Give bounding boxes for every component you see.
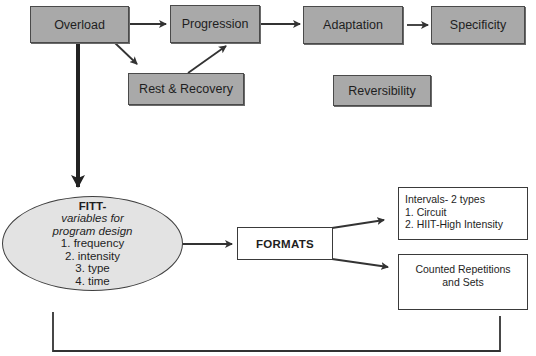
arrow-rest-progression xyxy=(188,46,226,73)
overload-label: Overload xyxy=(54,18,105,32)
reversibility-box: Reversibility xyxy=(333,75,431,106)
counted-line-2: and Sets xyxy=(399,276,527,289)
fitt-ellipse: FITT- variables for program design 1. fr… xyxy=(2,196,183,291)
adaptation-box: Adaptation xyxy=(303,6,403,44)
specificity-label: Specificity xyxy=(450,18,506,32)
fitt-subtitle-1: variables for xyxy=(61,212,124,225)
intervals-title: Intervals- 2 types xyxy=(405,193,527,206)
progression-label: Progression xyxy=(182,17,249,31)
fitt-subtitle-2: program design xyxy=(53,225,133,238)
arrow-overload-rest xyxy=(115,43,137,64)
counted-repetitions-box: Counted Repetitions and Sets xyxy=(398,254,528,310)
adaptation-label: Adaptation xyxy=(323,18,383,32)
fitt-item-time: 4. time xyxy=(75,275,110,288)
overload-box: Overload xyxy=(30,6,129,43)
intervals-item-circuit: 1. Circuit xyxy=(405,206,527,219)
fitt-item-intensity: 2. intensity xyxy=(65,250,120,263)
fitt-item-frequency: 1. frequency xyxy=(61,237,124,250)
specificity-box: Specificity xyxy=(431,6,525,44)
formats-label: FORMATS xyxy=(256,238,314,250)
fitt-item-type: 3. type xyxy=(75,262,110,275)
rest-recovery-label: Rest & Recovery xyxy=(139,82,233,96)
formats-box: FORMATS xyxy=(237,227,333,260)
rest-recovery-box: Rest & Recovery xyxy=(128,73,244,105)
progression-box: Progression xyxy=(170,5,260,43)
arrow-formats-intervals xyxy=(332,220,384,228)
fitt-title: FITT- xyxy=(79,200,106,213)
bottom-bracket xyxy=(53,312,500,351)
intervals-box: Intervals- 2 types 1. Circuit 2. HIIT-Hi… xyxy=(398,187,528,240)
arrow-formats-counted xyxy=(332,259,388,267)
counted-line-1: Counted Repetitions xyxy=(399,263,527,276)
reversibility-label: Reversibility xyxy=(348,84,415,98)
intervals-item-hiit: 2. HIIT-High Intensity xyxy=(405,218,527,231)
